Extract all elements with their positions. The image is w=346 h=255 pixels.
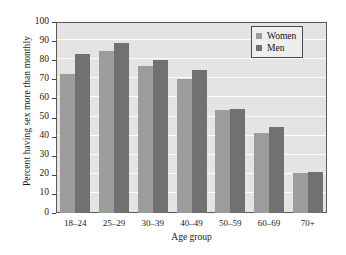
- legend-swatch-men-icon: [256, 45, 262, 51]
- bar-men-4: [230, 109, 245, 213]
- bar-group: [211, 22, 250, 213]
- x-axis-tick-label: 18–24: [56, 214, 95, 228]
- y-axis-tick-label: 50: [40, 111, 50, 121]
- bar-women-0: [60, 74, 75, 213]
- bar-women-4: [215, 110, 230, 213]
- bar-group: [95, 22, 134, 213]
- x-axis-tick-label: 60–69: [250, 214, 289, 228]
- y-axis-tick-label: 90: [40, 35, 50, 45]
- bar-group: [133, 22, 172, 213]
- bar-women-3: [177, 79, 192, 213]
- bar-men-5: [269, 127, 284, 213]
- y-axis-tick-label: 20: [40, 168, 50, 178]
- bar-women-1: [99, 51, 114, 213]
- x-axis-tick-label: 25–29: [95, 214, 134, 228]
- y-axis-tick-label: 40: [40, 130, 50, 140]
- y-axis-tick-label: 30: [40, 149, 50, 159]
- legend-swatch-women-icon: [256, 33, 262, 39]
- bar-men-3: [192, 70, 207, 213]
- bar-men-0: [75, 54, 90, 213]
- x-axis-title: Age group: [56, 232, 327, 242]
- bar-men-6: [308, 172, 323, 213]
- legend-label-women: Women: [267, 31, 296, 41]
- x-axis-tick-label: 40–49: [172, 214, 211, 228]
- legend-item-women: Women: [256, 30, 296, 42]
- y-axis-tick-label: 60: [40, 92, 50, 102]
- y-axis-tick-label: 0: [44, 207, 49, 217]
- x-axis-tick-label: 70+: [288, 214, 327, 228]
- legend-item-men: Men: [256, 42, 296, 54]
- y-axis-tick-label: 100: [35, 16, 49, 26]
- bar-women-6: [293, 173, 308, 213]
- x-axis-tick-group: 18–2425–2930–3940–4950–5960–6970+: [56, 214, 327, 228]
- bar-women-5: [254, 133, 269, 213]
- y-axis-tick-group: 0102030405060708090100: [0, 22, 56, 213]
- bar-men-2: [153, 60, 168, 213]
- x-axis-tick-label: 50–59: [211, 214, 250, 228]
- x-axis-tick-label: 30–39: [133, 214, 172, 228]
- bar-women-2: [138, 66, 153, 213]
- chart-legend: Women Men: [251, 26, 303, 58]
- y-axis-tick-label: 80: [40, 54, 50, 64]
- bar-chart-figure: Percent having sex more than monthly 010…: [0, 0, 346, 255]
- y-axis-tick-label: 70: [40, 73, 50, 83]
- bar-men-1: [114, 43, 129, 213]
- legend-label-men: Men: [267, 43, 284, 53]
- y-axis-tick-label: 10: [40, 187, 50, 197]
- bar-group: [56, 22, 95, 213]
- bar-group: [172, 22, 211, 213]
